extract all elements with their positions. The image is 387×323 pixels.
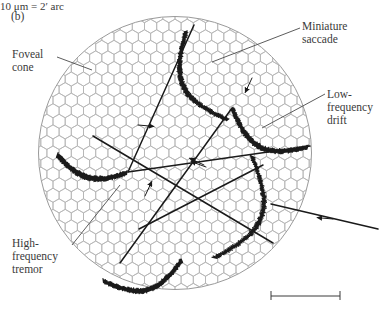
panel-label: (b) — [11, 10, 24, 23]
direction-arrow — [245, 78, 252, 93]
saccade-segment — [128, 25, 194, 172]
figure-canvas — [0, 0, 387, 323]
drift-tremor-path — [177, 31, 229, 121]
drift-tremor-path — [103, 259, 183, 294]
label-miniature-saccade: Miniature saccade — [302, 20, 347, 46]
label-low-frequency-drift: Low- frequency drift — [327, 88, 373, 127]
saccade-segment — [271, 204, 378, 229]
leader-miniature-saccade — [212, 28, 300, 62]
figure-panel-b: (b) Foveal cone Miniature saccade Low- f… — [0, 0, 387, 323]
label-high-frequency-tremor: High- frequency tremor — [12, 237, 58, 276]
label-foveal-cone: Foveal cone — [12, 48, 43, 74]
scale-bar — [271, 291, 340, 300]
leader-low-frequency-drift — [262, 94, 325, 128]
drift-tremor-path — [56, 153, 127, 182]
